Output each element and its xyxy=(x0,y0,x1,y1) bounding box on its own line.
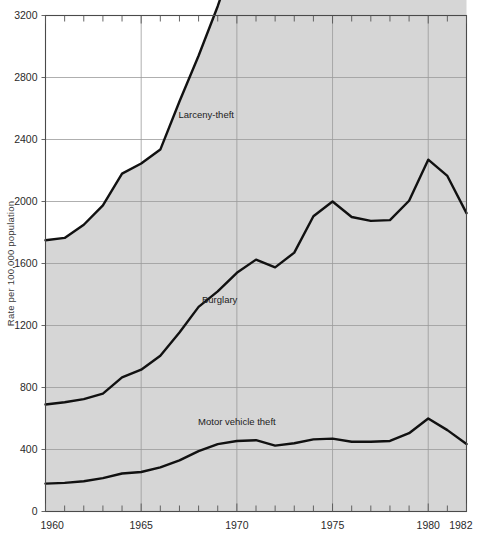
x-axis-tick-label: 1965 xyxy=(130,519,154,531)
chart-canvas: 0400800120016002000240028003200 19601965… xyxy=(0,0,485,537)
y-axis-tick-label: 2000 xyxy=(14,195,38,207)
series-label-larceny-theft: Larceny-theft xyxy=(179,109,235,120)
y-axis-tick-label: 2800 xyxy=(14,71,38,83)
y-axis-tick-label: 0 xyxy=(32,505,38,517)
x-axis-tick-label: 1970 xyxy=(225,519,249,531)
y-axis-tick-label: 2400 xyxy=(14,133,38,145)
x-axis-tick-label: 1960 xyxy=(41,519,65,531)
y-axis-tick-label: 1200 xyxy=(14,319,38,331)
y-axis-tick-label: 400 xyxy=(20,443,38,455)
y-axis-title-group: Rate per 100,000 population xyxy=(5,201,16,326)
y-axis-title: Rate per 100,000 population xyxy=(5,201,16,326)
x-axis-tick-label: 1982 xyxy=(449,519,473,531)
x-axis-tick-label: 1975 xyxy=(321,519,345,531)
y-axis-tick-label: 3200 xyxy=(14,9,38,21)
crime-rate-area-chart: 0400800120016002000240028003200 19601965… xyxy=(0,0,485,537)
y-axis-tick-label: 1600 xyxy=(14,257,38,269)
series-label-motor-vehicle-theft: Motor vehicle theft xyxy=(198,416,276,427)
x-axis-tick-label: 1980 xyxy=(417,519,441,531)
series-label-burglary: Burglary xyxy=(202,294,238,305)
y-axis-tick-label: 800 xyxy=(20,381,38,393)
